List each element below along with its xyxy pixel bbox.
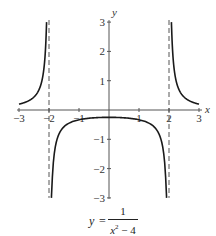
fraction-denominator: x2 − 4 <box>108 221 138 234</box>
y-tick-label: 2 <box>100 45 106 57</box>
y-axis-label: y <box>111 6 117 18</box>
equation-fraction: 1 x2 − 4 <box>108 205 138 234</box>
equation-lhs: y <box>89 214 94 229</box>
x-tick-label: −1 <box>73 112 85 124</box>
y-tick-label: −3 <box>93 192 105 204</box>
axes <box>17 20 202 199</box>
x-tick-label: 2 <box>166 112 172 124</box>
denominator-constant: − 4 <box>119 224 136 236</box>
y-tick-label: −2 <box>93 163 105 175</box>
y-tick-label: −1 <box>93 133 105 145</box>
equation-caption: y = 1 x2 − 4 <box>0 205 216 236</box>
x-tick-label: −3 <box>13 112 25 124</box>
x-tick-label: 3 <box>196 112 202 124</box>
y-tick-label: 3 <box>100 16 106 28</box>
x-axis-label: x <box>204 103 210 115</box>
fraction-numerator: 1 <box>108 205 138 218</box>
equation-equals: = <box>99 214 106 229</box>
function-plot: −3−2−1123−3−2−1123 x y <box>0 0 216 236</box>
curve-right-branch <box>171 22 199 104</box>
x-tick-label: −2 <box>43 112 55 124</box>
x-tick-label: 1 <box>136 112 142 124</box>
curve-left-branch <box>19 22 47 104</box>
y-tick-label: 1 <box>100 75 106 87</box>
fraction-bar <box>108 219 138 220</box>
